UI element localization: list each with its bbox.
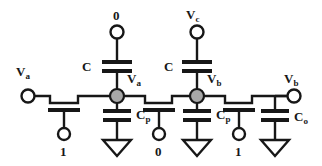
label-input-terminal: Va — [16, 65, 30, 78]
output-capacitor-branch — [261, 96, 289, 156]
ground-symbol-a — [103, 140, 131, 156]
schematic-drawing — [0, 0, 322, 166]
circuit-diagram: Va 0 Vc C C Va Vb Vb Cp Cp Co 1 0 1 — [0, 0, 322, 166]
ground-symbol-b — [183, 140, 211, 156]
label-output-capacitor: Co — [294, 110, 308, 123]
parasitic-capacitor-b-branch — [183, 96, 211, 156]
label-output-terminal: Vb — [284, 72, 298, 85]
transistor-2-gate-terminal[interactable] — [153, 128, 165, 140]
label-top-left-source: 0 — [113, 9, 120, 22]
parasitic-capacitor-a-branch — [103, 96, 131, 156]
label-coupling-capacitor-right: C — [164, 60, 173, 73]
label-parasitic-capacitor-b: Cp — [216, 108, 230, 121]
label-top-right-source: Vc — [186, 8, 199, 21]
node-dot-va — [110, 89, 124, 103]
label-gate-signal-2: 0 — [155, 145, 162, 158]
transistor-3-gate-terminal[interactable] — [233, 128, 245, 140]
signal-rail — [35, 96, 288, 103]
output-terminal-vb[interactable] — [288, 90, 301, 103]
source-terminal-zero[interactable] — [111, 26, 124, 39]
ground-symbol-c — [261, 140, 289, 156]
label-parasitic-capacitor-a: Cp — [136, 108, 150, 121]
label-coupling-capacitor-left: C — [82, 60, 91, 73]
node-dot-vb — [190, 89, 204, 103]
transistor-1-gate-terminal[interactable] — [58, 128, 70, 140]
label-node-va: Va — [127, 72, 141, 85]
pass-transistor-1 — [48, 110, 80, 140]
label-gate-signal-1: 1 — [60, 145, 67, 158]
label-node-vb: Vb — [207, 72, 221, 85]
input-terminal-va[interactable] — [22, 90, 35, 103]
label-gate-signal-3: 1 — [235, 145, 242, 158]
source-terminal-vc[interactable] — [191, 26, 204, 39]
